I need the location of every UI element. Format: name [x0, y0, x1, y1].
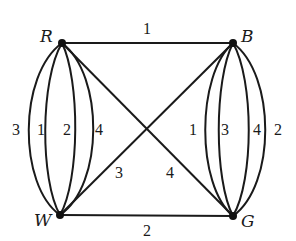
node-W [56, 211, 64, 219]
edge-label-B-G-1: 1 [189, 121, 197, 138]
node-label-W: W [34, 210, 53, 230]
node-B [229, 39, 237, 47]
edge-label-R-W-1: 1 [37, 121, 45, 138]
edge-label-B-G-3: 3 [221, 121, 229, 138]
node-R [58, 39, 66, 47]
node-label-B: B [240, 26, 254, 46]
edge-R-W-1 [45, 43, 62, 215]
edge-label-R-W-2: 2 [63, 121, 71, 138]
edge-label-W-G: 2 [143, 222, 151, 239]
node-label-G: G [241, 211, 255, 231]
edge-label-B-G-2: 2 [274, 121, 282, 138]
node-G [229, 212, 237, 220]
edge-B-G-4 [233, 43, 249, 216]
edge-W-G [60, 215, 233, 216]
edge-label-R-W-3: 3 [12, 121, 20, 138]
edge-label-B-G-4: 4 [253, 121, 261, 138]
graph-diagram: R B W G 1 2 3 4 3 1 2 4 1 3 4 2 [0, 0, 296, 241]
edge-label-W-B: 3 [115, 164, 123, 181]
node-label-R: R [39, 26, 53, 46]
edge-label-R-W-4: 4 [95, 121, 103, 138]
edge-label-R-G: 4 [166, 164, 174, 181]
edge-label-R-B: 1 [143, 20, 151, 37]
